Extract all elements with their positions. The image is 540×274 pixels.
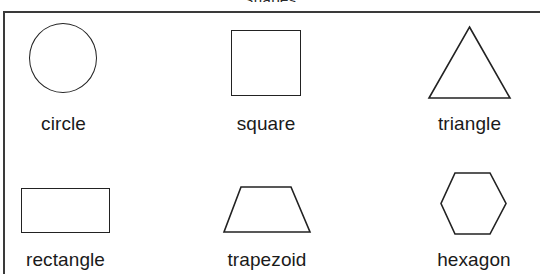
triangle-outline-icon (429, 27, 510, 98)
shape-label-trapezoid: trapezoid (217, 249, 317, 271)
shape-label-rectangle: rectangle (16, 249, 115, 271)
trapezoid-path (224, 187, 310, 232)
worksheet-frame-top-border (3, 11, 540, 13)
shape-label-circle: circle (14, 113, 113, 135)
shapes-worksheet: Shapes circle square triangle rectangle … (0, 0, 540, 274)
worksheet-frame-left-border (3, 11, 5, 274)
shape-label-hexagon: hexagon (424, 249, 524, 271)
hexagon-outline-icon (441, 173, 506, 234)
trapezoid-outline-icon (224, 187, 310, 232)
worksheet-title: Shapes (0, 0, 540, 2)
shape-label-square: square (216, 113, 316, 135)
shape-label-triangle: triangle (420, 113, 519, 135)
circle-outline-icon (29, 23, 97, 93)
rectangle-outline-icon (21, 188, 110, 233)
square-outline-icon (231, 30, 301, 96)
hexagon-path (441, 173, 506, 234)
triangle-path (429, 27, 510, 98)
